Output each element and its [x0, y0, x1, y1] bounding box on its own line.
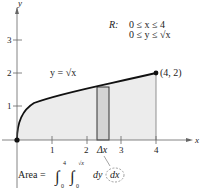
x-axis-arrow-icon [186, 138, 193, 142]
delta-x-label: Δx [96, 144, 108, 155]
origin-point [14, 137, 19, 142]
region-name: R: [108, 19, 118, 30]
point-label: (4, 2) [160, 67, 182, 79]
endpoint-4-2 [154, 71, 159, 76]
integral-2-upper: √x [78, 160, 84, 166]
delta-x-leader [104, 156, 110, 166]
double-integral-area-figure: y x 1 2 3 1 2 3 4 Δx R: 0 ≤ x ≤ 4 0 ≤ y … [0, 0, 212, 192]
y-tick-label-1: 1 [7, 101, 12, 111]
y-axis-arrow-icon [15, 7, 19, 14]
integral-sign-2: ∫ [69, 168, 76, 187]
representative-rectangle [97, 87, 109, 140]
integral-1-upper: 4 [63, 160, 66, 166]
x-tick-label-2: 2 [84, 145, 89, 155]
shaded-region [17, 73, 156, 140]
y-axis-label: y [17, 0, 22, 8]
x-axis-label: x [194, 135, 199, 145]
y-tick-label-2: 2 [7, 68, 12, 78]
x-tick-label-4: 4 [154, 145, 159, 155]
integral-1-lower: 0 [61, 183, 64, 189]
integral-sign-1: ∫ [54, 168, 61, 187]
dy-differential: dy [93, 169, 103, 180]
y-tick-label-3: 3 [7, 35, 12, 45]
integral-2-lower: 0 [76, 183, 79, 189]
x-tick-label-1: 1 [50, 145, 55, 155]
area-word: Area = [18, 169, 46, 180]
x-tick-label-3: 3 [119, 145, 124, 155]
dx-differential: dx [110, 169, 120, 180]
region-y-bounds: 0 ≤ y ≤ √x [129, 29, 170, 40]
curve-label: y = √x [50, 67, 76, 78]
